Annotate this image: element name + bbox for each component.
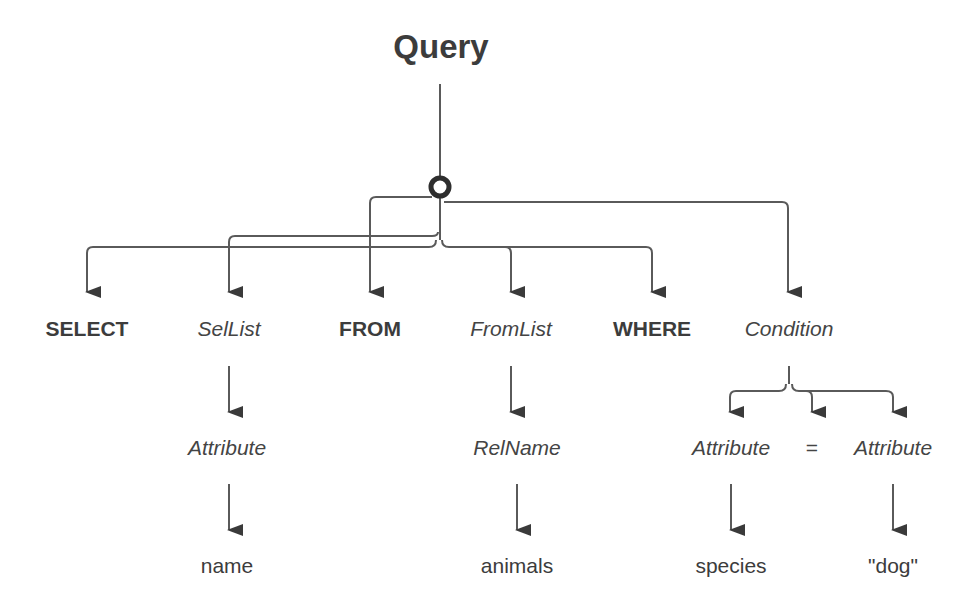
node-animals: animals: [481, 555, 553, 576]
node-name: name: [201, 555, 254, 576]
edge-where: [505, 247, 652, 292]
node-condition: Condition: [745, 318, 834, 339]
node-sellist-attribute: Attribute: [188, 437, 266, 458]
node-condition-attribute-left: Attribute: [692, 437, 770, 458]
edge-sellist: [229, 232, 438, 292]
edge-condition-attribute-left: [730, 384, 786, 412]
node-condition-attribute-right: Attribute: [854, 437, 932, 458]
edge-condition-equals: [792, 384, 812, 412]
node-from: FROM: [339, 318, 401, 339]
edge-from: [370, 197, 432, 292]
node-relname: RelName: [473, 437, 561, 458]
query-parse-tree: Query SELECT SelList FROM FromList WHERE…: [0, 0, 972, 608]
node-dog: "dog": [868, 555, 918, 576]
edge-fromlist: [442, 240, 511, 292]
node-equals-operator: =: [806, 437, 818, 458]
node-where: WHERE: [613, 318, 691, 339]
node-sellist: SelList: [197, 318, 260, 339]
node-species: species: [695, 555, 766, 576]
edge-select: [87, 240, 436, 292]
tree-edges: [0, 0, 972, 608]
node-query: Query: [393, 30, 488, 63]
node-select: SELECT: [46, 318, 129, 339]
edge-condition-attribute-right: [806, 391, 893, 412]
hub-ring-icon: [431, 178, 449, 196]
node-fromlist: FromList: [470, 318, 552, 339]
